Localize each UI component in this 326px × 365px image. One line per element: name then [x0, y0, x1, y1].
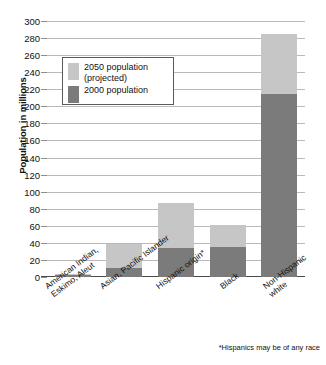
y-axis-tick-label: 240 [24, 67, 40, 78]
y-axis-tick-mark [41, 55, 47, 56]
y-axis-tick-mark [41, 260, 47, 261]
y-axis-tick-mark [41, 243, 47, 244]
y-axis-tick-label: 120 [24, 169, 40, 180]
legend-item-2000: 2000 population [68, 85, 169, 103]
y-axis-tick-mark [41, 123, 47, 124]
y-axis-tick-mark [41, 175, 47, 176]
y-axis-tick-label: 0 [35, 272, 40, 283]
legend-label-2050: 2050 population (projected) [84, 62, 148, 83]
y-axis-tick-label: 100 [24, 186, 40, 197]
bar-4 [210, 225, 246, 277]
population-bar-chart: Population in millions 30028026024022020… [0, 0, 326, 365]
y-axis-tick-mark [41, 106, 47, 107]
y-axis-tick-label: 220 [24, 84, 40, 95]
y-axis-tick-mark [41, 21, 47, 22]
bar-segment-2000 [261, 94, 297, 277]
y-axis-tick-mark [41, 277, 47, 278]
y-axis-tick-mark [41, 192, 47, 193]
y-axis-tick-label: 140 [24, 152, 40, 163]
y-axis-tick-mark [41, 89, 47, 90]
y-axis-tick-mark [41, 72, 47, 73]
y-axis-tick-mark [41, 209, 47, 210]
y-axis-tick-label: 160 [24, 135, 40, 146]
y-axis-tick-mark [41, 226, 47, 227]
y-axis-tick-mark [41, 158, 47, 159]
bar-5 [261, 34, 297, 277]
bar-segment-2000 [210, 247, 246, 277]
chart-legend: 2050 population (projected) 2000 populat… [62, 57, 174, 105]
legend-label-2000: 2000 population [84, 85, 148, 96]
bar-segment-2050-projected [261, 34, 297, 94]
chart-footnote: *Hispanics may be of any race [219, 343, 320, 352]
y-axis-tick-label: 80 [29, 203, 40, 214]
y-axis-tick-label: 20 [29, 254, 40, 265]
bar-segment-2050-projected [210, 225, 246, 247]
y-axis-tick-label: 260 [24, 50, 40, 61]
legend-swatch-2000 [68, 86, 79, 103]
y-axis-tick-label: 280 [24, 33, 40, 44]
y-axis-tick-mark [41, 140, 47, 141]
legend-swatch-2050 [68, 63, 79, 80]
y-axis-tick-label: 300 [24, 16, 40, 27]
y-axis-tick-label: 200 [24, 101, 40, 112]
y-axis-tick-label: 40 [29, 237, 40, 248]
y-axis-tick-label: 180 [24, 118, 40, 129]
legend-item-2050: 2050 population (projected) [68, 62, 169, 83]
y-axis-tick-label: 60 [29, 220, 40, 231]
gridline [47, 21, 305, 22]
y-axis-tick-mark [41, 38, 47, 39]
